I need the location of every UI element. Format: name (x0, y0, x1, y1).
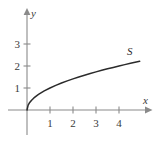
curve-s-path (27, 61, 140, 110)
x-axis-arrowhead (145, 107, 153, 114)
y-axis (24, 8, 31, 135)
x-tick-label-4: 4 (113, 118, 125, 129)
y-axis-arrowhead (24, 8, 31, 15)
x-tick-label-1: 1 (44, 118, 56, 129)
x-tick-label-3: 3 (90, 118, 102, 129)
figure-container: 3 2 1 1 2 3 4 y x S (0, 0, 156, 144)
curve-label-s: S (127, 46, 133, 57)
x-axis (8, 107, 153, 114)
y-axis-name-label: y (31, 8, 36, 19)
x-tick-label-2: 2 (67, 118, 79, 129)
x-axis-name-label: x (143, 95, 148, 106)
y-tick-label-1: 1 (8, 83, 20, 94)
y-tick-label-3: 3 (8, 39, 20, 50)
y-tick-label-2: 2 (8, 61, 20, 72)
